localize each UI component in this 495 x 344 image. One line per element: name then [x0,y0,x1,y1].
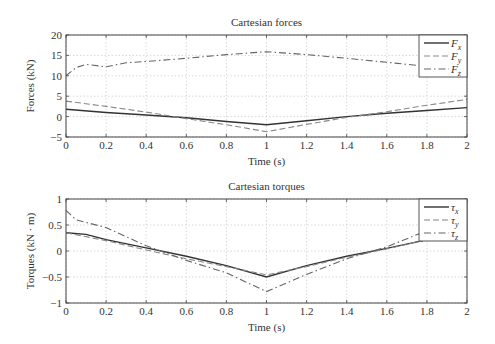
x-tick-label: 1.8 [420,139,434,151]
legend: FxFyFz [419,35,467,78]
y-tick-label: 10 [51,70,63,82]
chart-panel-2: 00.20.40.60.811.21.41.61.82−1−0.500.51Ca… [24,180,470,334]
x-tick-label: 0 [63,139,69,151]
series-τy [66,233,423,275]
x-axis-label: Time (s) [248,155,286,168]
x-tick-label: 0.8 [220,139,234,151]
x-tick-label: 0.6 [179,305,193,317]
x-tick-label: 1.2 [300,305,314,317]
y-tick-label: 15 [51,49,63,61]
x-tick-label: 1 [264,305,270,317]
x-tick-label: 1 [264,139,270,151]
x-axis-label: Time (s) [248,321,286,334]
x-tick-label: 0.2 [99,305,113,317]
chart-title: Cartesian torques [228,180,305,192]
y-tick-label: −1 [50,297,62,309]
x-tick-label: 1.6 [380,139,394,151]
x-tick-label: 0.2 [99,139,113,151]
figure: 00.20.40.60.811.21.41.61.82−505101520Car… [0,0,495,344]
y-tick-label: −5 [50,131,62,143]
y-axis-label: Forces (kN) [24,59,37,112]
x-tick-label: 0.4 [139,305,153,317]
x-tick-label: 0 [63,305,69,317]
y-tick-label: 1 [57,193,63,205]
x-tick-label: 1.2 [300,139,314,151]
legend: τxτyτz [419,199,467,242]
y-tick-label: 0 [57,111,63,123]
x-tick-label: 1.4 [340,305,354,317]
grid [66,199,467,303]
chart-title: Cartesian forces [231,16,302,28]
y-tick-label: 20 [51,29,63,41]
x-tick-label: 0.6 [179,139,193,151]
y-tick-label: −0.5 [42,271,62,283]
y-tick-label: 5 [57,90,63,102]
y-axis-label: Torques (kN · m) [24,212,37,289]
x-tick-label: 0.8 [220,305,234,317]
x-tick-label: 2 [464,139,470,151]
y-tick-label: 0 [57,245,63,257]
grid [66,35,467,137]
x-tick-label: 1.4 [340,139,354,151]
x-tick-label: 1.6 [380,305,394,317]
x-tick-label: 2 [464,305,470,317]
y-tick-label: 0.5 [48,219,62,231]
x-tick-label: 1.8 [420,305,434,317]
chart-panel-1: 00.20.40.60.811.21.41.61.82−505101520Car… [24,16,470,168]
x-tick-label: 0.4 [139,139,153,151]
